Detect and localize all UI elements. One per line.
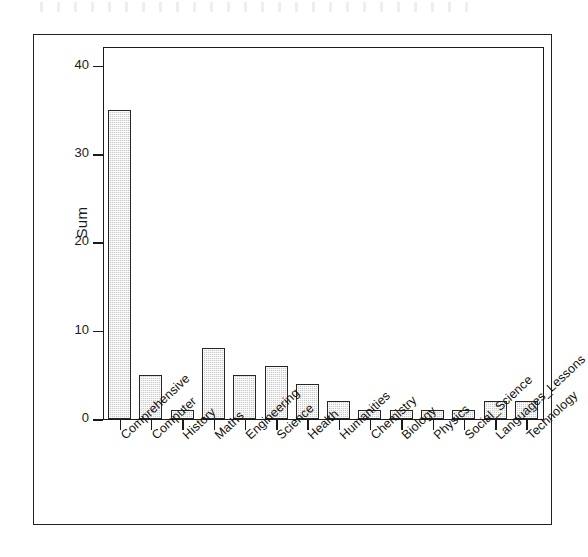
y-axis-tick-mark bbox=[93, 331, 103, 333]
y-axis-tick-label: 20 bbox=[75, 233, 89, 248]
y-axis-tick: 10 bbox=[58, 331, 103, 332]
y-axis-tick: 0 bbox=[58, 419, 103, 420]
y-axis-tick-label: 10 bbox=[75, 322, 89, 337]
y-axis-title: Sum bbox=[73, 183, 90, 263]
y-axis-tick-label: 40 bbox=[75, 57, 89, 72]
y-axis-tick-mark bbox=[93, 154, 103, 156]
y-axis-tick: 20 bbox=[58, 242, 103, 243]
scan-artifact bbox=[40, 2, 470, 12]
y-axis-tick-label: 30 bbox=[75, 145, 89, 160]
y-axis-tick-mark bbox=[93, 419, 103, 421]
y-axis-tick-label: 0 bbox=[82, 410, 89, 425]
y-axis-tick: 30 bbox=[58, 154, 103, 155]
y-axis-tick: 40 bbox=[58, 66, 103, 67]
bar bbox=[108, 110, 131, 419]
bars-layer bbox=[104, 48, 542, 419]
y-axis-tick-mark bbox=[93, 242, 103, 244]
y-axis-tick-mark bbox=[93, 66, 103, 68]
